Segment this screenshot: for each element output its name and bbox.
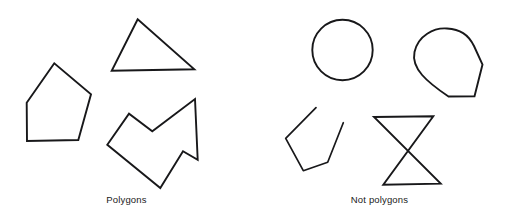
open-polyline-shape xyxy=(286,108,344,171)
triangle-shape xyxy=(112,19,195,70)
not-polygons-group xyxy=(286,20,483,185)
teardrop-blob-shape xyxy=(414,28,482,96)
caption-not-polygons: Not polygons xyxy=(253,194,506,205)
pentagon-shape xyxy=(27,63,91,141)
figure-root: Polygons Not polygons xyxy=(0,0,506,223)
circle-shape xyxy=(312,20,372,80)
caption-polygons: Polygons xyxy=(0,194,253,205)
shapes-canvas xyxy=(0,0,506,223)
bowtie-self-intersecting-shape xyxy=(374,116,441,184)
concave-arrow-polygon-shape xyxy=(107,99,197,188)
polygons-group xyxy=(27,19,198,188)
